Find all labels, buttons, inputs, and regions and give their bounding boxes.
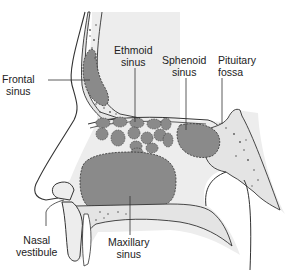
label-nasal-line2: vestibule	[16, 246, 57, 258]
label-pituitary-fossa: Pituitary fossa	[218, 54, 256, 78]
upper-lip	[62, 202, 82, 261]
diagram-graphic	[0, 0, 288, 273]
sinus-diagram: Frontal sinus Ethmoid sinus Sphenoid sin…	[0, 0, 288, 273]
label-sphenoid-sinus: Sphenoid sinus	[162, 54, 206, 78]
label-frontal-line1: Frontal	[2, 73, 35, 85]
label-pituitary-line1: Pituitary	[218, 54, 256, 66]
label-ethmoid-line1: Ethmoid	[114, 44, 153, 56]
label-maxillary-line1: Maxillary	[108, 236, 149, 248]
label-sphenoid-line2: sinus	[162, 66, 206, 78]
incisor-tooth	[83, 214, 92, 266]
label-frontal-line2: sinus	[2, 85, 35, 97]
nasal-ala	[52, 182, 74, 200]
label-maxillary-sinus: Maxillary sinus	[108, 236, 149, 260]
label-sphenoid-line1: Sphenoid	[162, 54, 206, 66]
label-nasal-vestibule: Nasal vestibule	[16, 234, 57, 258]
label-frontal-sinus: Frontal sinus	[2, 73, 35, 97]
label-ethmoid-line2: sinus	[114, 56, 153, 68]
label-pituitary-line2: fossa	[218, 66, 256, 78]
label-nasal-line1: Nasal	[16, 234, 57, 246]
label-maxillary-line2: sinus	[108, 248, 149, 260]
label-ethmoid-sinus: Ethmoid sinus	[114, 44, 153, 68]
maxillary-sinus	[80, 152, 176, 206]
